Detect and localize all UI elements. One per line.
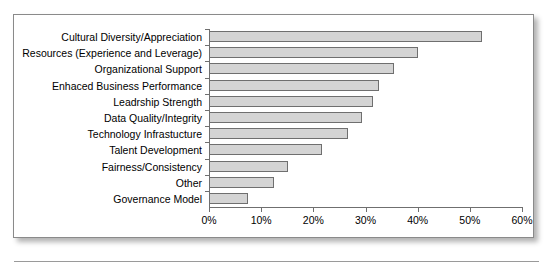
bar [209, 31, 482, 42]
category-label: Organizational Support [95, 64, 207, 75]
category-label: Governance Model [113, 194, 207, 205]
bar [209, 80, 379, 91]
category-label: Enhaced Business Performance [52, 80, 207, 91]
category-label: Data Quality/Integrity [104, 113, 207, 124]
value-tick-mark [209, 208, 210, 212]
bar-row: Cultural Diversity/Appreciation [14, 29, 533, 45]
category-label: Other [176, 178, 207, 189]
category-label: Fairness/Consistency [102, 161, 207, 172]
bar-row: Other [14, 175, 533, 191]
category-label: Talent Development [109, 145, 207, 156]
value-tick-label: 40% [407, 214, 428, 226]
value-tick-mark [366, 208, 367, 212]
value-tick-label: 30% [355, 214, 376, 226]
value-tick-mark [418, 208, 419, 212]
bar-row: Talent Development [14, 142, 533, 158]
value-tick-label: 0% [201, 214, 216, 226]
bar-row: Leadrship Strength [14, 94, 533, 110]
bar [209, 112, 362, 123]
value-tick-mark [313, 208, 314, 212]
bar [209, 96, 373, 107]
bar-row: Organizational Support [14, 61, 533, 77]
bar [209, 128, 348, 139]
bar [209, 193, 248, 204]
value-tick-mark [470, 208, 471, 212]
value-tick-label: 10% [251, 214, 272, 226]
value-tick-label: 50% [459, 214, 480, 226]
bar-row: Data Quality/Integrity [14, 110, 533, 126]
bar-row: Governance Model [14, 191, 533, 207]
bar [209, 177, 274, 188]
chart-plot-area: Cultural Diversity/AppreciationResources… [14, 15, 533, 237]
value-tick-label: 60% [511, 214, 532, 226]
chart-figure-frame: Cultural Diversity/AppreciationResources… [13, 14, 534, 238]
category-label: Resources (Experience and Leverage) [22, 48, 207, 59]
value-tick-mark [261, 208, 262, 212]
category-label: Cultural Diversity/Appreciation [61, 32, 207, 43]
bar [209, 161, 288, 172]
bar-row: Technology Infrastucture [14, 126, 533, 142]
bar [209, 63, 394, 74]
bar-row: Resources (Experience and Leverage) [14, 45, 533, 61]
bottom-divider-rule [14, 261, 539, 262]
bar-row: Enhaced Business Performance [14, 78, 533, 94]
category-label: Technology Infrastucture [88, 129, 207, 140]
bar-row: Fairness/Consistency [14, 159, 533, 175]
bar [209, 144, 322, 155]
value-tick-mark [522, 208, 523, 212]
bar [209, 47, 418, 58]
value-tick-label: 20% [303, 214, 324, 226]
category-label: Leadrship Strength [113, 97, 207, 108]
